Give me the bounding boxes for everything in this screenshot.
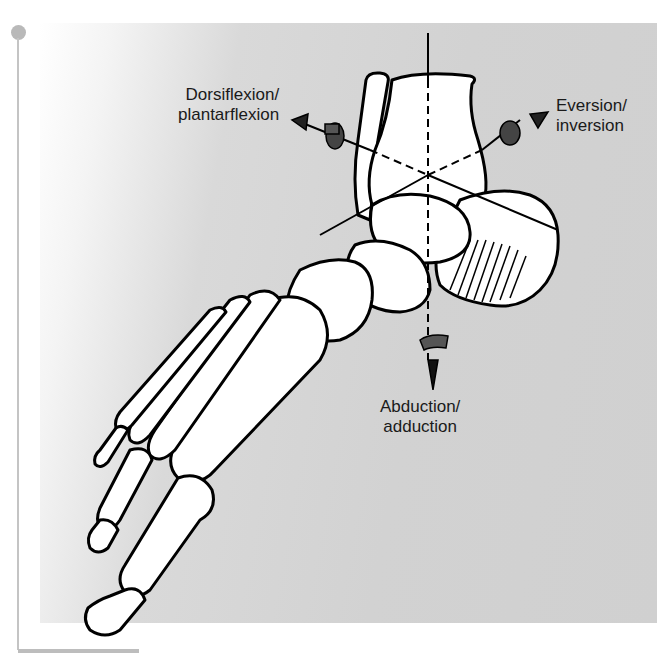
label-line: inversion [556,116,627,136]
hallux-distal [85,589,145,635]
label-line: adduction [380,417,460,437]
eversion-inversion-label: Eversion/ inversion [556,96,627,136]
label-line: Dorsiflexion/ [178,85,279,105]
dorsiflexion-plantarflexion-label: Dorsiflexion/ plantarflexion [178,85,279,125]
second-toe-tip [88,520,118,552]
abduction-arrow-icon [420,335,448,390]
label-line: Eversion/ [556,96,627,116]
eversion-arrow-icon [500,112,548,145]
label-line: Abduction/ [380,397,460,417]
abduction-adduction-label: Abduction/ adduction [380,397,460,437]
label-line: plantarflexion [178,105,279,125]
dorsiflexion-arrow-icon [292,114,344,149]
